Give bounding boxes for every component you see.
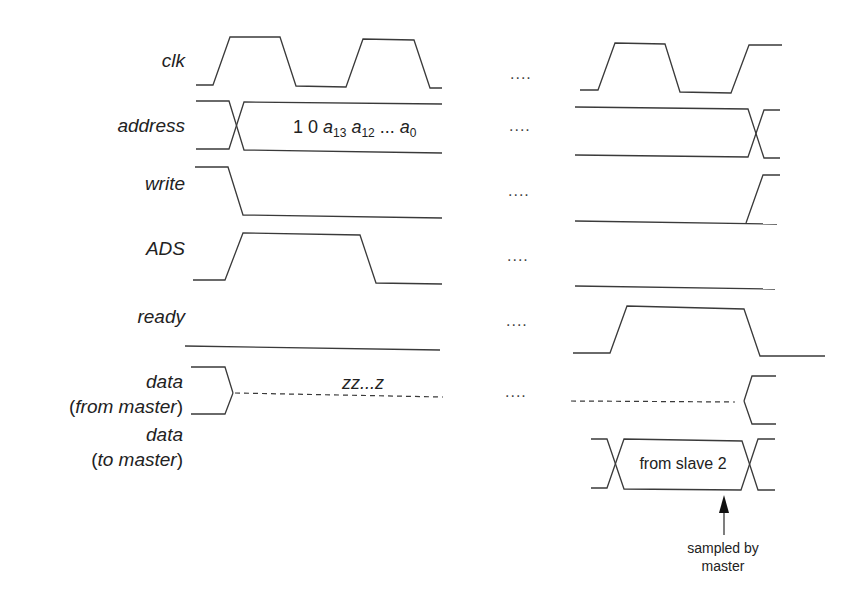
label-ads: ADS bbox=[145, 238, 185, 259]
clk-waveform-left bbox=[196, 37, 442, 88]
label-data-to-master: data bbox=[146, 424, 183, 445]
continuation-write: .... bbox=[508, 182, 530, 199]
slave-data-box-label: from slave 2 bbox=[639, 455, 726, 472]
label-address: address bbox=[117, 115, 185, 136]
data-from-master-top-left bbox=[191, 367, 233, 393]
ready-waveform-left bbox=[185, 346, 440, 350]
address-bottom-right bbox=[575, 110, 780, 157]
data-from-master-bottom-left bbox=[191, 393, 233, 414]
data-from-master-highz-left bbox=[235, 393, 443, 397]
high-z-label: zz...z bbox=[341, 373, 384, 393]
label-data-from-master: data bbox=[146, 371, 183, 392]
data-from-master-bottom-right bbox=[744, 401, 776, 424]
label-from-master-qualifier: (from master) bbox=[69, 396, 183, 417]
data-from-master-top-right bbox=[744, 376, 776, 401]
address-top-right bbox=[575, 107, 780, 158]
write-rise-right bbox=[746, 175, 780, 223]
ads-waveform-left bbox=[193, 233, 442, 284]
continuation-address: .... bbox=[509, 117, 531, 134]
ads-waveform-right bbox=[575, 286, 775, 289]
sample-arrow-head-icon bbox=[719, 495, 729, 513]
continuation-ads: .... bbox=[507, 247, 529, 264]
clk-waveform-right bbox=[580, 43, 782, 93]
label-ready: ready bbox=[137, 306, 186, 327]
label-write: write bbox=[145, 173, 185, 194]
continuation-clk: .... bbox=[510, 65, 532, 82]
timing-diagram: clk address write ADS ready data (from m… bbox=[0, 0, 861, 593]
label-to-master-qualifier: (to master) bbox=[91, 449, 183, 470]
continuation-ready: .... bbox=[506, 312, 528, 329]
annotation-line-1: sampled by bbox=[687, 540, 759, 556]
address-value: 1 0 a13 a12 ... a0 bbox=[293, 117, 417, 140]
continuation-data: .... bbox=[505, 383, 527, 400]
annotation-line-2: master bbox=[702, 558, 745, 574]
ready-waveform-right bbox=[573, 306, 825, 356]
data-from-master-highz-right bbox=[571, 401, 735, 402]
write-waveform-left bbox=[195, 167, 442, 218]
label-clk: clk bbox=[162, 50, 187, 71]
